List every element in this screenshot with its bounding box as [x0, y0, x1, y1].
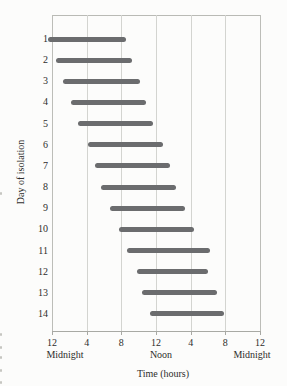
- sleep-period-bar-day-14: [150, 311, 224, 316]
- x-axis-tickmark: [121, 331, 122, 335]
- y-axis-title: Day of isolation: [16, 124, 26, 220]
- sleep-period-bar-day-7: [95, 163, 170, 168]
- x-axis-tickmark: [52, 331, 53, 335]
- sleep-isolation-chart: Day of isolation 1234567891011121314 124…: [0, 0, 287, 386]
- sleep-period-bar-day-3: [63, 79, 139, 84]
- vertical-gridline: [225, 15, 226, 331]
- day-number-label: 8: [26, 182, 48, 192]
- vertical-gridline: [52, 15, 53, 331]
- sleep-period-bar-day-4: [71, 100, 146, 105]
- day-number-label: 10: [26, 224, 48, 234]
- x-axis-tickmark: [225, 331, 226, 335]
- day-number-label: 13: [26, 288, 48, 298]
- x-axis-tick-label: 8: [119, 338, 124, 348]
- day-number-label: 6: [26, 140, 48, 150]
- sleep-period-bar-day-10: [119, 227, 194, 232]
- x-axis-tick-label: 12: [47, 338, 57, 348]
- figure-page: Day of isolation 1234567891011121314 124…: [0, 0, 287, 386]
- x-axis-tickmark: [191, 331, 192, 335]
- sleep-period-bar-day-13: [142, 290, 217, 295]
- sleep-period-bar-day-6: [88, 142, 163, 147]
- sleep-period-bar-day-11: [127, 248, 209, 253]
- x-axis-tickmark: [260, 331, 261, 335]
- day-number-label: 3: [26, 76, 48, 86]
- x-axis-tick-label: 12: [255, 338, 265, 348]
- day-number-label: 2: [26, 55, 48, 65]
- x-axis-annotation-noon: Noon: [150, 349, 172, 360]
- day-number-label: 9: [26, 203, 48, 213]
- x-axis-tick-label: 4: [84, 338, 89, 348]
- vertical-gridline: [260, 15, 261, 331]
- day-number-label: 14: [26, 309, 48, 319]
- x-axis-tickmark: [87, 331, 88, 335]
- sleep-period-bar-day-9: [110, 206, 185, 211]
- x-axis-tickmark: [156, 331, 157, 335]
- sleep-period-bar-day-5: [78, 121, 153, 126]
- x-axis-title: Time (hours): [137, 368, 189, 379]
- day-number-label: 11: [26, 246, 48, 256]
- x-axis-tick-label: 12: [151, 338, 161, 348]
- sleep-period-bar-day-1: [48, 37, 126, 42]
- x-axis-annotation-midnight-left: Midnight: [46, 349, 83, 360]
- x-axis-tick-label: 8: [223, 338, 228, 348]
- sleep-period-bar-day-2: [56, 58, 132, 63]
- x-axis-tick-label: 4: [188, 338, 193, 348]
- vertical-gridline: [156, 15, 157, 331]
- day-number-label: 7: [26, 161, 48, 171]
- vertical-gridline: [191, 15, 192, 331]
- day-number-label: 12: [26, 267, 48, 277]
- x-axis-annotation-midnight-right: Midnight: [233, 349, 270, 360]
- day-number-label: 4: [26, 97, 48, 107]
- day-number-label: 1: [26, 34, 48, 44]
- sleep-period-bar-day-12: [137, 269, 208, 274]
- day-number-label: 5: [26, 119, 48, 129]
- sleep-period-bar-day-8: [101, 185, 176, 190]
